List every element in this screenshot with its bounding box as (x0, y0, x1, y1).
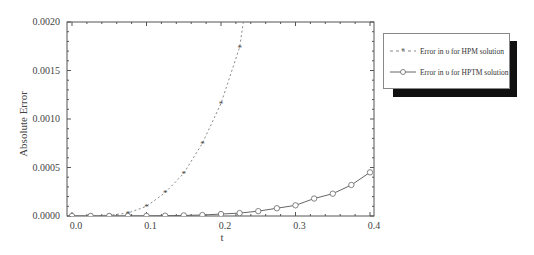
plot-frame (67, 22, 374, 216)
legend: * Error in υ for HPM solution Error in υ… (383, 33, 510, 89)
circle-marker (69, 213, 74, 218)
circle-marker (218, 211, 223, 216)
x-tick-label: 0.0 (70, 220, 83, 231)
y-tick-label: 0.0005 (33, 162, 61, 173)
circle-marker (107, 213, 112, 218)
circle-marker (330, 191, 335, 196)
circle-marker (367, 170, 372, 175)
y-tick-label: 0.0000 (33, 210, 61, 221)
circle-marker (237, 210, 242, 215)
y-tick-label: 0.0020 (33, 16, 61, 27)
y-tick-label: 0.0010 (33, 113, 61, 124)
circle-marker (311, 196, 316, 201)
circle-marker (144, 213, 149, 218)
star-marker: * (219, 99, 224, 109)
series-hptm (69, 170, 372, 219)
solid-circle-line-icon (390, 68, 416, 76)
circle-marker (256, 208, 261, 213)
circle-marker (349, 182, 354, 187)
star-marker: * (163, 188, 168, 198)
star-marker: * (144, 202, 149, 212)
star-marker: * (182, 169, 187, 179)
series-hpm: ********** (70, 22, 244, 222)
circle-marker (125, 213, 130, 218)
x-tick-label: 0.1 (144, 220, 157, 231)
plot-area: 0.00.10.20.30.40.00000.00050.00100.00150… (33, 16, 381, 231)
legend-item-hpm: * Error in υ for HPM solution (390, 44, 504, 58)
svg-text:*: * (401, 47, 405, 55)
circle-marker (274, 206, 279, 211)
legend-item-hptm: Error in υ for HPTM solution (390, 65, 509, 79)
circle-marker (181, 213, 186, 218)
circle-marker (200, 212, 205, 217)
x-axis-title: t (220, 231, 223, 243)
circle-marker (162, 213, 167, 218)
x-tick-label: 0.3 (293, 220, 306, 231)
x-tick-label: 0.4 (368, 220, 381, 231)
y-tick-label: 0.0015 (33, 65, 61, 76)
circle-marker (293, 203, 298, 208)
legend-label-hptm: Error in υ for HPTM solution (420, 68, 509, 77)
x-tick-label: 0.2 (219, 220, 232, 231)
star-marker: * (200, 139, 205, 149)
dashed-star-line-icon: * (390, 47, 416, 55)
y-axis-title: Absolute Error (17, 91, 29, 157)
circle-marker (88, 213, 93, 218)
legend-label-hpm: Error in υ for HPM solution (420, 47, 504, 56)
star-marker: * (237, 43, 242, 53)
